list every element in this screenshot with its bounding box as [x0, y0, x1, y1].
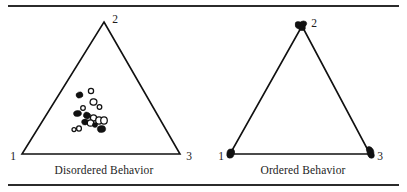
panel-ordered-behavior: 1 2 3	[203, 8, 403, 184]
vertex-label-2: 2	[112, 13, 118, 25]
vertex-cluster-group	[226, 21, 374, 158]
scatter-point	[90, 98, 98, 105]
vertex-marker	[227, 153, 232, 158]
panel-caption-disordered: Disordered Behavior	[4, 163, 204, 177]
disordered-triangle-plot: 1 2 3	[4, 8, 204, 166]
vertex-label-3: 3	[377, 150, 383, 162]
scatter-point-group	[72, 88, 107, 133]
bottom-horizontal-rule	[8, 184, 399, 186]
scatter-point	[97, 125, 106, 133]
scatter-point	[101, 117, 108, 124]
scatter-point	[92, 123, 97, 128]
triangle-outline	[230, 26, 370, 154]
panel-caption-ordered: Ordered Behavior	[203, 163, 403, 177]
vertex-marker	[369, 153, 375, 159]
vertex-marker	[299, 25, 306, 30]
vertex-label-1: 1	[218, 150, 224, 162]
vertex-cluster-3	[366, 147, 374, 159]
scatter-point	[81, 106, 86, 111]
scatter-point	[77, 126, 82, 131]
scatter-point	[75, 91, 84, 99]
figure-container: 1 2 3 Disord	[0, 0, 407, 192]
scatter-point	[88, 88, 93, 93]
vertex-label-3: 3	[186, 150, 192, 162]
vertex-marker	[366, 147, 371, 153]
panel-disordered-behavior: 1 2 3 Disord	[4, 8, 204, 184]
scatter-point	[97, 105, 102, 110]
scatter-point	[72, 128, 76, 132]
triangle-outline	[22, 22, 180, 154]
vertex-label-2: 2	[311, 17, 317, 29]
vertex-cluster-2	[295, 21, 307, 31]
scatter-point	[73, 110, 82, 117]
top-horizontal-rule	[8, 5, 399, 7]
ordered-triangle-plot: 1 2 3	[203, 8, 403, 166]
vertex-cluster-1	[226, 149, 234, 159]
vertex-label-1: 1	[10, 150, 16, 162]
